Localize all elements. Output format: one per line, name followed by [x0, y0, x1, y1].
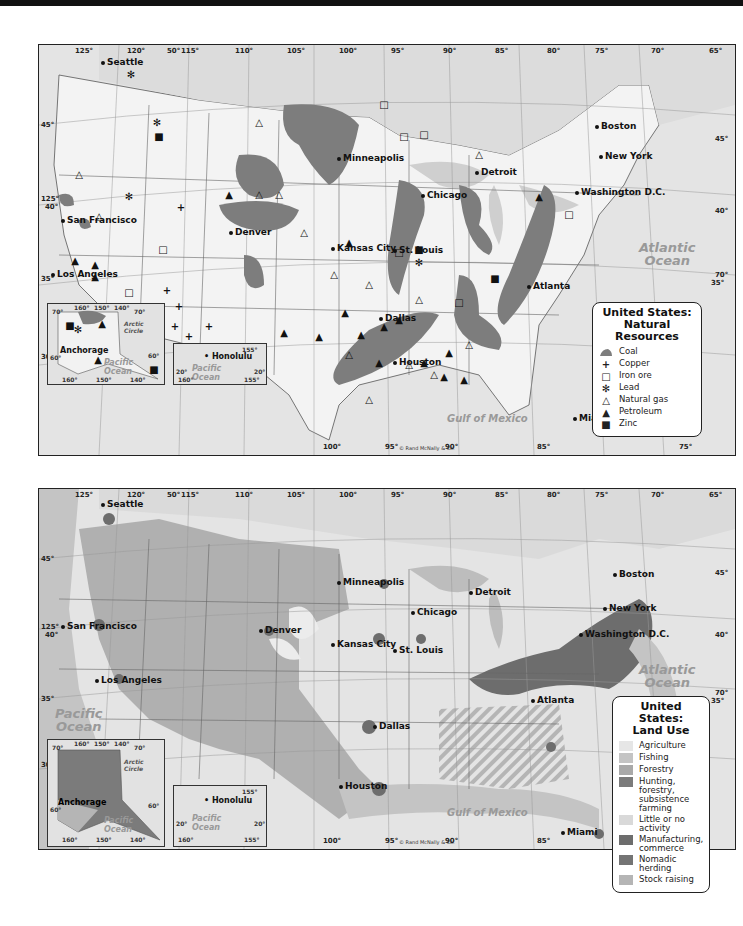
- lon-label: 90°: [443, 491, 456, 499]
- iron-ore-icon: □: [379, 100, 388, 110]
- city-detroit: Detroit: [469, 587, 511, 597]
- lon-label: 80°: [547, 47, 560, 55]
- pacific-ocean-label: PacificOcean: [104, 816, 133, 834]
- lon-label: 80°: [547, 491, 560, 499]
- lon-label: 100°: [323, 837, 341, 845]
- lon-label: 100°: [339, 47, 357, 55]
- lat-label: 45°: [715, 569, 728, 577]
- city-atlanta: Atlanta: [527, 281, 570, 291]
- lon-label: 65°: [709, 47, 722, 55]
- lon-label: 125°: [75, 47, 93, 55]
- legend-item-coal: Coal: [599, 347, 695, 357]
- top-border: [0, 0, 743, 6]
- copper-icon: +: [185, 332, 193, 342]
- copyright-credit: © Rand McNally & Co.: [399, 445, 455, 451]
- city-dallas: Dallas: [373, 721, 410, 731]
- city-boston: Boston: [613, 569, 654, 579]
- petroleum-icon: ▲: [280, 328, 288, 338]
- city-chicago: Chicago: [421, 190, 467, 200]
- petroleum-icon: ▲: [225, 190, 233, 200]
- city-new-york: New York: [599, 151, 652, 161]
- natural-resources-legend: United States:Natural Resources Coal +Co…: [592, 302, 702, 437]
- city-minneapolis: Minneapolis: [337, 153, 404, 163]
- petroleum-icon: ▲: [375, 358, 383, 368]
- lon-label: 90°: [443, 47, 456, 55]
- hawaii-inset: 155° • Honolulu 20° 20° PacificOcean 160…: [173, 343, 267, 385]
- city-honolulu: • Honolulu: [204, 352, 252, 361]
- lon-label: 75°: [679, 443, 692, 451]
- nomadic-herding-swatch: [619, 855, 633, 865]
- lat-label: 50°: [167, 491, 180, 499]
- iron-ore-icon: □: [419, 130, 428, 140]
- copper-icon: +: [163, 286, 171, 296]
- pacific-ocean-label: PacificOcean: [192, 364, 221, 382]
- natural-gas-icon: △: [255, 118, 263, 128]
- coal-icon: [599, 347, 613, 357]
- stock-raising-swatch: [619, 875, 633, 885]
- copper-icon: +: [177, 203, 185, 213]
- natural-gas-icon: △: [430, 370, 438, 380]
- lon-label: 95°: [385, 443, 398, 451]
- legend-title: United States:Land Use: [619, 701, 703, 737]
- manufacturing-swatch: [619, 835, 633, 845]
- city-washington-dc: Washington D.C.: [575, 187, 665, 197]
- lon-label: 105°: [287, 491, 305, 499]
- natural-gas-icon: △: [255, 190, 263, 200]
- city-chicago: Chicago: [411, 607, 457, 617]
- legend-item-lead: ✻Lead: [599, 383, 695, 393]
- lon-label: 95°: [385, 837, 398, 845]
- copper-icon: +: [205, 322, 213, 332]
- legend-item-nomadic-herding: Nomadic herding: [619, 855, 703, 873]
- city-houston: Houston: [393, 357, 441, 367]
- iron-ore-icon: □: [564, 210, 573, 220]
- natural-gas-icon: △: [95, 212, 103, 222]
- lon-label: 125°: [41, 195, 59, 203]
- petroleum-icon: ▲: [440, 372, 448, 382]
- legend-item-petroleum: ▲Petroleum: [599, 407, 695, 417]
- petroleum-icon: ▲: [315, 332, 323, 342]
- iron-ore-icon: □: [124, 288, 133, 298]
- natural-gas-icon: △: [345, 350, 353, 360]
- alaska-inset: 70° 160° 150° 140° 70° Arctic Circle Anc…: [47, 303, 165, 385]
- petroleum-icon: ▲: [98, 319, 106, 329]
- legend-item-stock-raising: Stock raising: [619, 875, 703, 885]
- arctic-circle-label: Arctic Circle: [124, 320, 164, 334]
- lat-label: 40°: [45, 203, 58, 211]
- city-seattle: Seattle: [101, 57, 143, 67]
- city-kansas-city: Kansas City: [331, 243, 396, 253]
- city-honolulu: • Honolulu: [204, 796, 252, 805]
- lead-icon: ✻: [74, 325, 82, 335]
- lat-label: 40°: [715, 631, 728, 639]
- pacific-ocean-label: PacificOcean: [55, 707, 103, 733]
- hawaii-inset: 155° • Honolulu 20° 20° PacificOcean 160…: [173, 785, 267, 847]
- lon-label: 110°: [235, 47, 253, 55]
- lon-label: 85°: [495, 491, 508, 499]
- atlantic-ocean-label: AtlanticOcean: [639, 241, 695, 267]
- copper-icon: +: [175, 302, 183, 312]
- zinc-icon: ■: [149, 365, 158, 375]
- lon-label: 120°: [127, 47, 145, 55]
- natural-gas-icon: △: [365, 395, 373, 405]
- city-denver: Denver: [259, 625, 301, 635]
- lead-icon: ✻: [153, 118, 161, 128]
- lon-label: 110°: [235, 491, 253, 499]
- pacific-ocean-label: PacificOcean: [192, 814, 221, 832]
- petroleum-icon: ▲: [380, 322, 388, 332]
- gulf-of-mexico-label: Gulf of Mexico: [447, 807, 528, 818]
- natural-gas-icon: △: [330, 270, 338, 280]
- petroleum-icon: ▲: [599, 407, 613, 417]
- lon-label: 120°: [127, 491, 145, 499]
- lat-label: 50°: [167, 47, 180, 55]
- legend-item-copper: +Copper: [599, 359, 695, 369]
- lon-label: 70°: [651, 47, 664, 55]
- petroleum-icon: ▲: [91, 260, 99, 270]
- arctic-circle-label: Arctic Circle: [124, 758, 164, 772]
- legend-item-manufacturing: Manufacturing, commerce: [619, 835, 703, 853]
- forestry-swatch: [619, 765, 633, 775]
- lon-label: 125°: [41, 623, 59, 631]
- zinc-icon: ■: [414, 245, 423, 255]
- iron-ore-icon: □: [394, 248, 403, 258]
- iron-ore-icon: □: [599, 371, 613, 381]
- lon-label: 125°: [75, 491, 93, 499]
- lon-label: 100°: [339, 491, 357, 499]
